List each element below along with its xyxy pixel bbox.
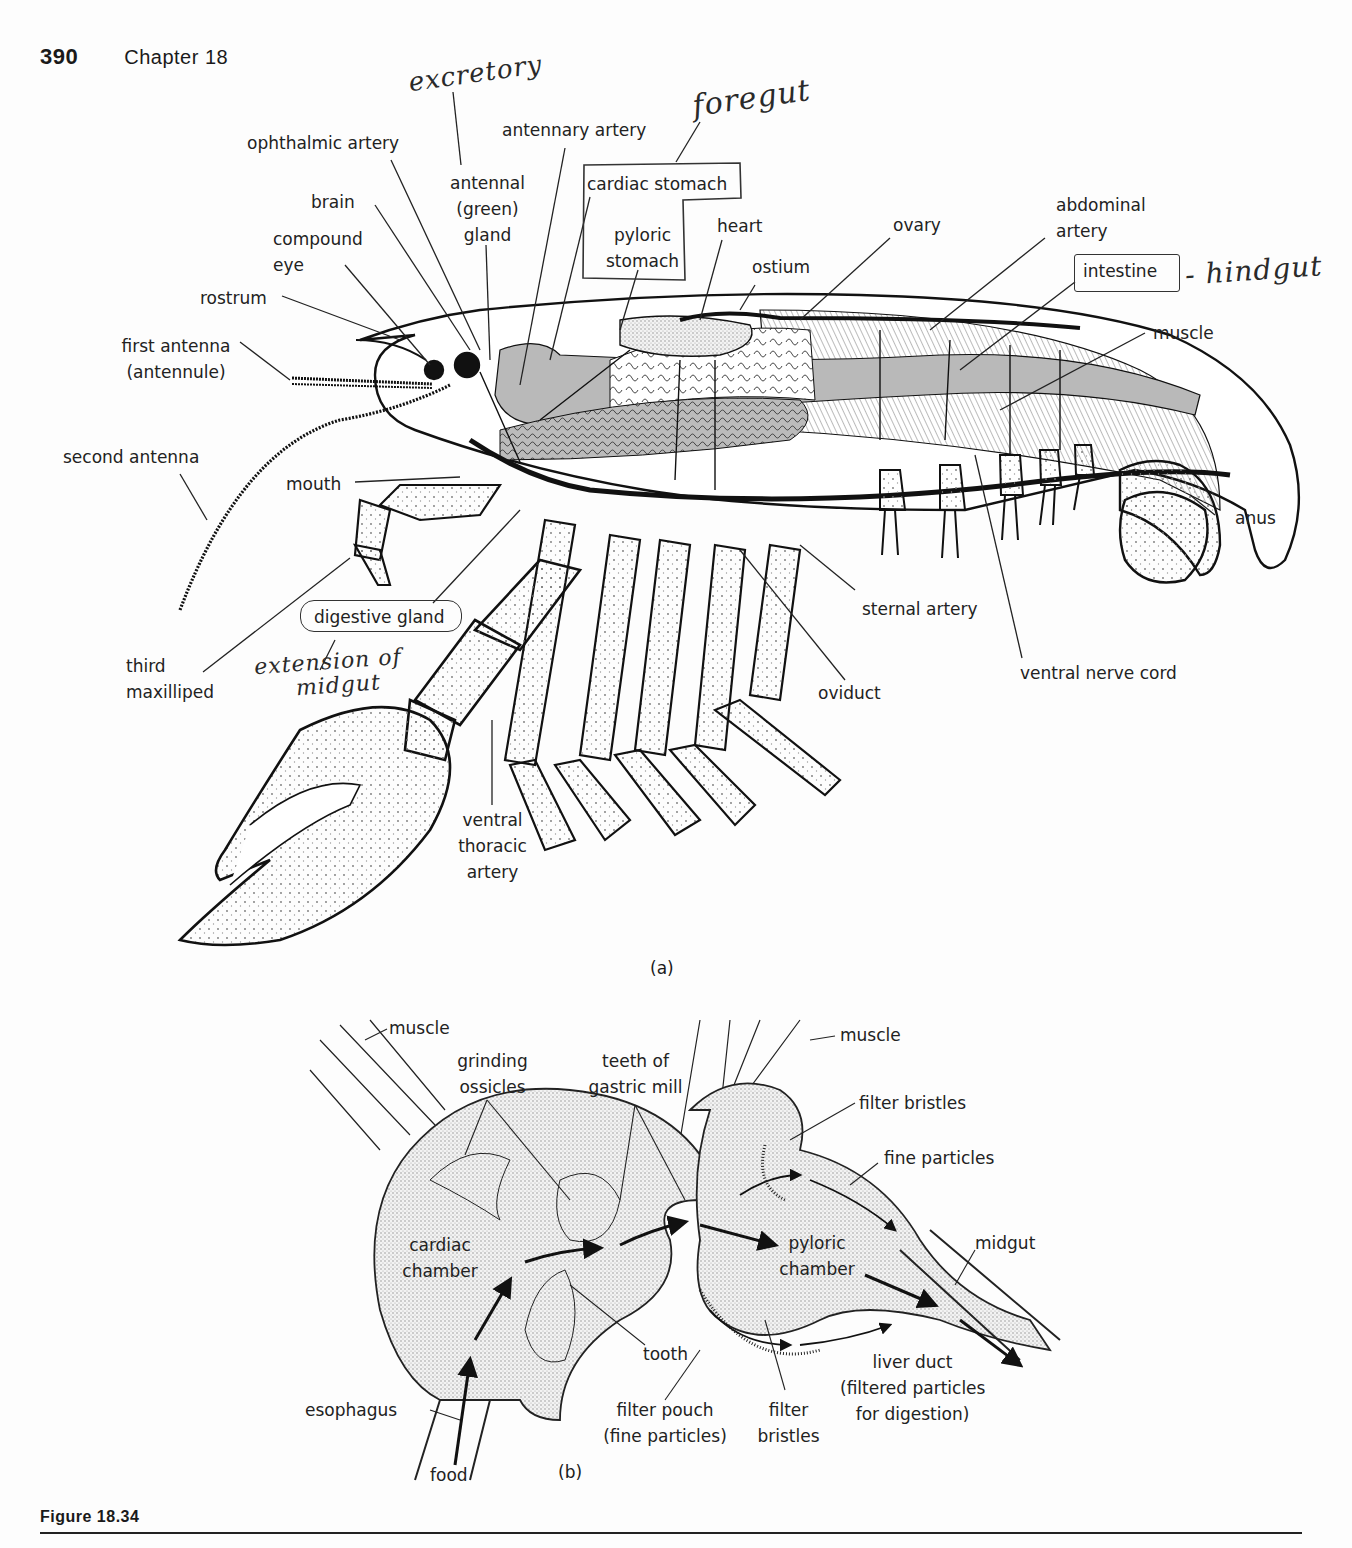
label-compound-eye-line1: compound (273, 226, 363, 252)
label-cardiac-chamber-line2: chamber (395, 1258, 485, 1284)
label-grinding-ossicles: grinding ossicles (450, 1048, 535, 1100)
label-ostium: ostium (752, 254, 810, 280)
label-filter-pouch-line2: (fine particles) (600, 1423, 730, 1449)
label-b-filter-bristles-bottom: filter bristles (756, 1397, 821, 1449)
label-esophagus: esophagus (305, 1397, 397, 1423)
label-midgut: midgut (975, 1230, 1035, 1256)
label-abdominal-artery-line2: artery (1056, 218, 1146, 244)
label-ophthalmic-artery: ophthalmic artery (247, 130, 399, 156)
label-compound-eye-line2: eye (273, 252, 363, 278)
label-tooth: tooth (643, 1341, 688, 1367)
label-antennal-gland: antennal (green) gland (440, 170, 535, 248)
figure-caption: Figure 18.34 (40, 1508, 139, 1526)
label-cardiac-stomach: cardiac stomach (587, 171, 727, 197)
label-ventral-nerve-cord: ventral nerve cord (1020, 660, 1177, 686)
label-intestine: intestine (1083, 258, 1157, 284)
label-oviduct: oviduct (818, 680, 881, 706)
caption-rule (40, 1532, 1302, 1534)
label-liver-duct: liver duct (filtered particles for diges… (840, 1349, 985, 1427)
label-pyloric-stomach-line2: stomach (600, 248, 685, 274)
label-pyloric-chamber-line1: pyloric (772, 1230, 862, 1256)
label-b-filter-bristles-top: filter bristles (859, 1090, 966, 1116)
label-abdominal-artery-line1: abdominal (1056, 192, 1146, 218)
panel-a-label: (a) (650, 958, 674, 978)
label-pyloric-stomach: pyloric stomach (600, 222, 685, 274)
label-first-antenna: first antenna (antennule) (116, 333, 236, 385)
label-compound-eye: compound eye (273, 226, 363, 278)
label-filter-bristles-line2: bristles (756, 1423, 821, 1449)
third-maxilliped (355, 485, 500, 585)
label-teeth-of-gastric-mill: teeth of gastric mill (583, 1048, 688, 1100)
label-cardiac-chamber: cardiac chamber (395, 1232, 485, 1284)
label-sternal-artery: sternal artery (862, 596, 978, 622)
label-b-muscle-left: muscle (389, 1015, 450, 1041)
label-ovary: ovary (893, 212, 941, 238)
label-antennal-gland-line1: antennal (440, 170, 535, 196)
label-digestive-gland: digestive gland (314, 604, 444, 630)
label-pyloric-chamber: pyloric chamber (772, 1230, 862, 1282)
label-fine-particles: fine particles (884, 1145, 994, 1171)
handwritten-extension-of-midgut: extension of midgut (254, 645, 405, 703)
label-abdominal-artery: abdominal artery (1056, 192, 1146, 244)
label-antennal-gland-line2: (green) (440, 196, 535, 222)
label-muscle: muscle (1153, 320, 1214, 346)
label-vta-line3: artery (450, 859, 535, 885)
label-first-antenna-line1: first antenna (116, 333, 236, 359)
label-second-antenna: second antenna (63, 444, 199, 470)
label-antennal-gland-line3: gland (440, 222, 535, 248)
label-liver-duct-line1: liver duct (840, 1349, 985, 1375)
label-vta-line1: ventral (450, 807, 535, 833)
label-heart: heart (717, 213, 762, 239)
label-filter-pouch-line1: filter pouch (600, 1397, 730, 1423)
label-grinding-line2: ossicles (450, 1074, 535, 1100)
label-teeth-line2: gastric mill (583, 1074, 688, 1100)
label-mouth: mouth (286, 471, 341, 497)
label-first-antenna-line2: (antennule) (116, 359, 236, 385)
label-filter-pouch: filter pouch (fine particles) (600, 1397, 730, 1449)
label-ventral-thoracic-artery: ventral thoracic artery (450, 807, 535, 885)
label-antennary-artery: antennary artery (502, 117, 646, 143)
label-third-maxilliped-line2: maxilliped (126, 679, 214, 705)
label-liver-duct-line3: for digestion) (840, 1401, 985, 1427)
label-vta-line2: thoracic (450, 833, 535, 859)
label-grinding-line1: grinding (450, 1048, 535, 1074)
label-teeth-line1: teeth of (583, 1048, 688, 1074)
label-food: food (430, 1462, 468, 1488)
label-brain: brain (311, 189, 355, 215)
label-pyloric-stomach-line1: pyloric (600, 222, 685, 248)
label-anus: anus (1235, 505, 1276, 531)
label-rostrum: rostrum (200, 285, 267, 311)
label-third-maxilliped-line1: third (126, 653, 214, 679)
label-third-maxilliped: third maxilliped (126, 653, 214, 705)
label-b-muscle-right: muscle (840, 1022, 901, 1048)
panel-b-label: (b) (558, 1462, 582, 1482)
label-filter-bristles-line1: filter (756, 1397, 821, 1423)
label-liver-duct-line2: (filtered particles (840, 1375, 985, 1401)
label-cardiac-chamber-line1: cardiac (395, 1232, 485, 1258)
label-pyloric-chamber-line2: chamber (772, 1256, 862, 1282)
